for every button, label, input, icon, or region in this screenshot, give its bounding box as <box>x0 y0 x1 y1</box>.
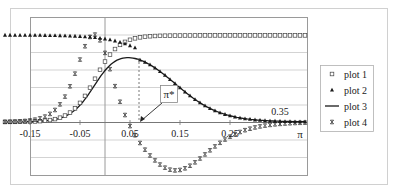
x-tick-label: 0.25 <box>221 128 239 139</box>
plot-1-marker <box>58 116 62 120</box>
plot-1-marker <box>193 34 197 38</box>
plot-1-marker <box>268 34 272 38</box>
legend: plot 1plot 2plot 3plot 4 <box>321 66 374 132</box>
square-marker-icon <box>330 72 334 76</box>
plot-1-marker <box>138 36 142 40</box>
x-tick-label: 0.15 <box>171 128 189 139</box>
plot-1-marker <box>178 34 182 38</box>
plot-1-marker <box>133 37 137 41</box>
plot-2-marker <box>3 33 7 37</box>
plot-1-marker <box>158 34 162 38</box>
plot-1-marker <box>113 47 117 51</box>
legend-label: plot 1 <box>344 69 367 80</box>
plot-1-marker <box>83 94 87 98</box>
plot-1-marker <box>148 34 152 38</box>
pi-star-label: π* <box>163 88 174 100</box>
axis-end-label: π <box>297 128 303 140</box>
plot-1-marker <box>283 34 287 38</box>
x-tick-label: 0.35 <box>271 106 289 117</box>
plot-1-marker <box>168 34 172 38</box>
chart: -0.15-0.050.050.150.250.35 π* π plot 1pl… <box>0 0 402 193</box>
plot-1-marker <box>63 114 67 118</box>
legend-label: plot 4 <box>344 117 367 128</box>
plot-1-marker <box>263 34 267 38</box>
legend-label: plot 2 <box>344 85 367 96</box>
plot-1-marker <box>303 34 307 38</box>
plot-1-marker <box>163 34 167 38</box>
plot-1-marker <box>238 34 242 38</box>
plot-1-marker <box>173 34 177 38</box>
plot-1-marker <box>68 111 72 115</box>
plot-1-marker <box>143 35 147 39</box>
x-tick-label: -0.05 <box>70 128 91 139</box>
plot-1-marker <box>188 34 192 38</box>
plot-1-marker <box>88 86 92 90</box>
plot-1-marker <box>213 34 217 38</box>
plot-1-marker <box>48 118 52 122</box>
plot-1-marker <box>278 34 282 38</box>
plot-1-marker <box>98 68 102 72</box>
plot-1-marker <box>233 34 237 38</box>
plot-1-marker <box>293 34 297 38</box>
plot-1-marker <box>298 34 302 38</box>
plot-1-marker <box>243 34 247 38</box>
plot-1-marker <box>208 34 212 38</box>
plot-1-marker <box>183 34 187 38</box>
legend-label: plot 3 <box>344 101 367 112</box>
x-tick-label: -0.15 <box>20 128 41 139</box>
plot-1-marker <box>273 34 277 38</box>
plot-1-marker <box>73 107 77 111</box>
plot-1-marker <box>93 77 97 81</box>
plot-1-marker <box>103 60 107 64</box>
plot-1-marker <box>53 117 57 121</box>
plot-1-marker <box>108 53 112 57</box>
plot-1-marker <box>203 34 207 38</box>
plot-1-marker <box>153 34 157 38</box>
plot-1-marker <box>258 34 262 38</box>
plot-1-marker <box>128 38 132 42</box>
plot-1-marker <box>228 34 232 38</box>
plot-1-marker <box>43 119 47 123</box>
plot-1-marker <box>288 34 292 38</box>
plot-1-marker <box>198 34 202 38</box>
plot-1-marker <box>218 34 222 38</box>
plot-1-marker <box>223 34 227 38</box>
plot-1-marker <box>248 34 252 38</box>
plot-1-marker <box>78 101 82 105</box>
plot-1-marker <box>253 34 257 38</box>
